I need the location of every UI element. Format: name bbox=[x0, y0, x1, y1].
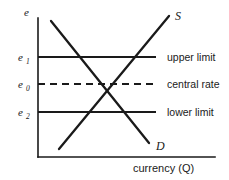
y-tick-e0-base: e bbox=[18, 78, 23, 90]
y-tick-e0-subscript: 0 bbox=[26, 84, 30, 93]
curves-group bbox=[51, 16, 169, 149]
y-tick-label-e1: e 1 bbox=[18, 51, 30, 66]
y-tick-e2-base: e bbox=[18, 106, 23, 118]
demand-curve bbox=[51, 21, 149, 143]
y-tick-e1-subscript: 1 bbox=[26, 57, 30, 66]
y-axis-title: e bbox=[24, 6, 29, 18]
supply-curve bbox=[59, 16, 169, 149]
exchange-rate-band-figure: e e 1 e 0 e 2 S D upper limit central ra… bbox=[0, 0, 229, 180]
supply-curve-label: S bbox=[175, 9, 181, 23]
y-tick-e1-base: e bbox=[18, 51, 23, 63]
demand-curve-label: D bbox=[155, 139, 165, 153]
lower-limit-label: lower limit bbox=[167, 106, 214, 118]
upper-limit-label: upper limit bbox=[167, 51, 216, 63]
x-axis-title: currency (Q) bbox=[133, 162, 194, 174]
y-tick-label-e0: e 0 bbox=[18, 78, 30, 93]
y-tick-e2-subscript: 2 bbox=[26, 112, 30, 121]
central-rate-label: central rate bbox=[167, 78, 220, 90]
figure-canvas: e e 1 e 0 e 2 S D upper limit central ra… bbox=[0, 0, 229, 180]
y-tick-label-e2: e 2 bbox=[18, 106, 30, 121]
